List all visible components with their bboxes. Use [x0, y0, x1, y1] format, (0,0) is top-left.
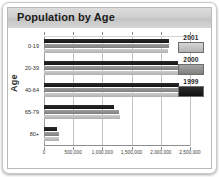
x-axis-tick	[161, 32, 162, 35]
bar	[44, 83, 179, 87]
category-label: 80+	[7, 131, 39, 137]
bar	[44, 137, 59, 141]
category-label: 0-19	[7, 43, 39, 49]
x-axis-tick-label: 2,000,000	[150, 150, 171, 155]
legend-label: 2001	[176, 34, 206, 42]
category-label: 40-64	[7, 87, 39, 93]
legend-item[interactable]: 1999	[176, 78, 206, 97]
legend-swatch	[178, 86, 204, 97]
chart-legend: 200120001999	[176, 34, 206, 100]
bar	[44, 39, 169, 43]
x-axis-tick-label: 2,500,000	[179, 150, 200, 155]
page-title: Population by Age	[17, 11, 115, 23]
bar	[44, 105, 114, 109]
chart-plot-region: Age 0-1920-3940-6465-7980+ 0500,0001,000…	[8, 28, 211, 168]
bar-group: 20-39	[44, 58, 190, 80]
category-label: 20-39	[7, 65, 39, 71]
x-axis-tick	[132, 32, 133, 35]
x-axis-tick-label: 1,500,000	[121, 150, 142, 155]
y-axis-title: Age	[9, 52, 19, 92]
bar	[44, 110, 119, 114]
bar-group: 0-19	[44, 36, 190, 58]
legend-item[interactable]: 2001	[176, 34, 206, 53]
bar-group: 65-79	[44, 102, 190, 124]
bar	[44, 71, 184, 75]
x-axis-tick-label: 1,000,000	[92, 150, 113, 155]
x-axis-tick-label: 0	[43, 150, 46, 155]
x-axis-tick-labels: 0500,0001,000,0001,500,0002,000,0002,500…	[44, 150, 190, 162]
chart-title-bar: Population by Age	[8, 8, 211, 29]
bar	[44, 49, 168, 53]
chart-inner-frame: Population by Age Age 0-1920-3940-6465-7…	[7, 7, 212, 169]
legend-swatch	[178, 42, 204, 53]
x-axis-tick-label: 500,000	[65, 150, 82, 155]
bar	[44, 88, 182, 92]
bar	[44, 44, 169, 48]
chart-object-frame: Population by Age Age 0-1920-3940-6465-7…	[2, 2, 217, 174]
legend-label: 2000	[176, 56, 206, 64]
bar	[44, 132, 59, 136]
x-axis-tick	[44, 32, 45, 35]
bar	[44, 61, 178, 65]
plot-area: 0-1920-3940-6465-7980+	[44, 36, 190, 146]
x-axis-tick	[102, 32, 103, 35]
bar-group: 80+	[44, 124, 190, 146]
category-label: 65-79	[7, 109, 39, 115]
legend-swatch	[178, 64, 204, 75]
bar	[44, 93, 185, 97]
bar	[44, 115, 120, 119]
x-axis-tick	[73, 32, 74, 35]
bar-group: 40-64	[44, 80, 190, 102]
chart-screenshot: Population by Age Age 0-1920-3940-6465-7…	[0, 0, 219, 177]
bar	[44, 127, 57, 131]
bar	[44, 66, 183, 70]
legend-label: 1999	[176, 78, 206, 86]
legend-item[interactable]: 2000	[176, 56, 206, 75]
